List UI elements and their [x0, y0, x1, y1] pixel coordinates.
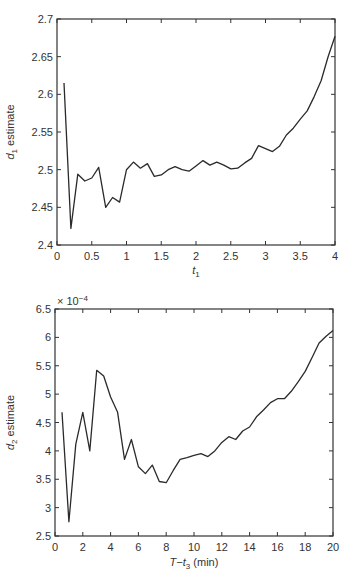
- x-tick-label: 0: [52, 541, 58, 553]
- y-tick-label: 2.6: [38, 88, 53, 100]
- data-line: [62, 331, 333, 522]
- y-tick-label: 2.5: [36, 530, 51, 542]
- x-tick-label: 14: [243, 541, 255, 553]
- y-tick-label: 6: [45, 331, 51, 343]
- x-axis-label: T−t3 (min): [170, 556, 219, 571]
- x-tick-label: 12: [216, 541, 228, 553]
- x-tick-label: 18: [299, 541, 311, 553]
- x-tick-label: 2: [80, 541, 86, 553]
- y-tick-label: 5.5: [36, 360, 51, 372]
- x-axis-label: t1: [192, 264, 200, 279]
- d2-chart: 024681012141618202.533.544.555.566.5× 10…: [4, 294, 339, 571]
- y-tick-label: 5: [45, 388, 51, 400]
- y-tick-label: 4: [45, 445, 51, 457]
- x-tick-label: 10: [188, 541, 200, 553]
- y-tick-label: 2.45: [32, 201, 53, 213]
- y-tick-label: 2.7: [38, 13, 53, 25]
- x-tick-label: 4: [108, 541, 114, 553]
- x-tick-label: 1.5: [154, 250, 169, 262]
- y-multiplier: × 10−4: [57, 294, 88, 307]
- d1-chart: 00.511.522.533.542.42.452.52.552.62.652.…: [4, 13, 338, 279]
- x-tick-label: 4: [332, 250, 338, 262]
- y-axis-label: d1 estimate: [4, 104, 19, 159]
- x-tick-label: 1: [123, 250, 129, 262]
- y-tick-label: 3.5: [36, 473, 51, 485]
- y-tick-label: 3: [45, 502, 51, 514]
- x-tick-label: 0: [54, 250, 60, 262]
- x-tick-label: 20: [327, 541, 339, 553]
- y-tick-label: 4.5: [36, 417, 51, 429]
- figure: 00.511.522.533.542.42.452.52.552.62.652.…: [0, 0, 359, 579]
- x-tick-label: 6: [135, 541, 141, 553]
- y-axis-label: d2 estimate: [4, 395, 19, 450]
- plot-frame: [55, 309, 333, 536]
- x-tick-label: 8: [163, 541, 169, 553]
- y-tick-label: 2.4: [38, 239, 53, 251]
- x-tick-label: 16: [271, 541, 283, 553]
- x-tick-label: 2: [193, 250, 199, 262]
- plot-frame: [57, 19, 335, 245]
- data-line: [64, 36, 335, 228]
- x-tick-label: 3: [262, 250, 268, 262]
- x-tick-label: 0.5: [84, 250, 99, 262]
- x-tick-label: 3.5: [293, 250, 308, 262]
- y-tick-label: 6.5: [36, 303, 51, 315]
- y-tick-label: 2.5: [38, 164, 53, 176]
- y-tick-label: 2.55: [32, 126, 53, 138]
- x-tick-label: 2.5: [223, 250, 238, 262]
- y-tick-label: 2.65: [32, 51, 53, 63]
